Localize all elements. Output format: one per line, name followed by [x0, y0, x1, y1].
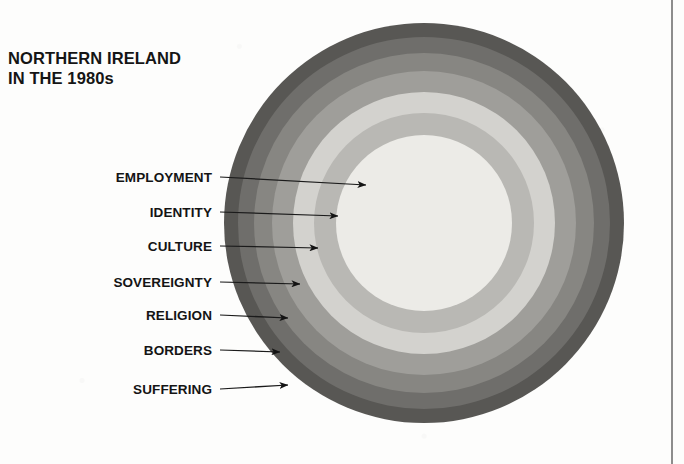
ring-label-sovereignty[interactable]: SOVEREIGNTY — [0, 275, 212, 290]
ring-label-religion[interactable]: RELIGION — [0, 308, 212, 323]
figure-page: NORTHERN IRELAND IN THE 1980s EMPLOYMENT… — [0, 0, 684, 464]
rings-group — [224, 23, 624, 423]
ring-label-employment[interactable]: EMPLOYMENT — [0, 170, 212, 185]
leader-line-suffering — [220, 385, 288, 389]
ring-label-borders[interactable]: BORDERS — [0, 343, 212, 358]
ring-label-culture[interactable]: CULTURE — [0, 239, 212, 254]
ring-label-suffering[interactable]: SUFFERING — [0, 382, 212, 397]
ring-label-identity[interactable]: IDENTITY — [0, 205, 212, 220]
ring-employment[interactable] — [336, 135, 512, 311]
